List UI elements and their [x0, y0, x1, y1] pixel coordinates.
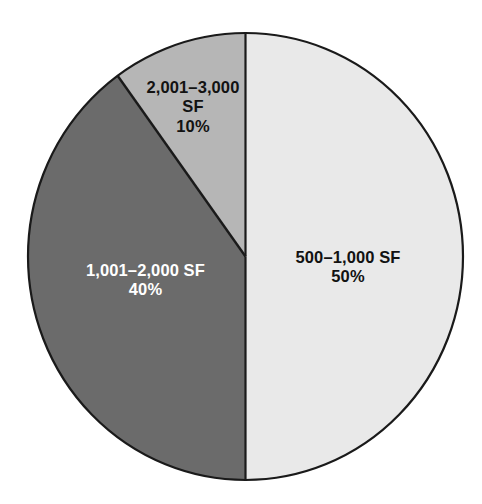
pie-label-2001-3000-sf: 2,001–3,000 SF 10% — [118, 78, 268, 136]
pie-label-2001-3000-sf-percent: 10% — [118, 117, 268, 136]
pie-label-1001-2000-sf-percent: 40% — [68, 280, 223, 299]
pie-label-1001-2000-sf-range: 1,001–2,000 SF — [68, 261, 223, 280]
pie-chart-figure: 2,001–3,000 SF 10% 500–1,000 SF 50% 1,00… — [0, 0, 482, 504]
pie-label-500-1000-sf: 500–1,000 SF 50% — [273, 248, 423, 287]
pie-label-500-1000-sf-percent: 50% — [273, 267, 423, 286]
pie-label-1001-2000-sf: 1,001–2,000 SF 40% — [68, 261, 223, 300]
pie-label-2001-3000-sf-unit: SF — [118, 97, 268, 116]
pie-label-2001-3000-sf-range: 2,001–3,000 — [118, 78, 268, 97]
pie-label-500-1000-sf-range: 500–1,000 SF — [273, 248, 423, 267]
